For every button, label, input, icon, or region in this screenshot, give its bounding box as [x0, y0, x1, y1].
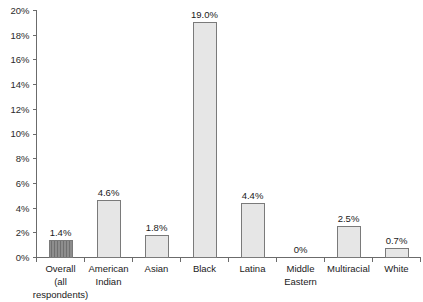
y-tick-label: 2%	[16, 227, 30, 238]
y-tick-label: 20%	[10, 5, 30, 16]
bar	[49, 240, 72, 257]
x-category-label: Latina	[240, 263, 267, 274]
bar-value-label: 0.7%	[386, 235, 408, 246]
x-category-label: Overall(allrespondents)	[33, 263, 88, 300]
bar	[193, 23, 216, 258]
y-tick-label: 6%	[16, 178, 30, 189]
bar	[97, 201, 120, 258]
y-tick-label: 8%	[16, 153, 30, 164]
bar-chart: 0%2%4%6%8%10%12%14%16%18%20% 1.4%4.6%1.8…	[0, 0, 423, 302]
bar-value-label: 4.4%	[242, 190, 264, 201]
bar-value-label: 4.6%	[98, 187, 120, 198]
y-tick-label: 0%	[16, 252, 30, 263]
bar-value-label: 1.8%	[146, 222, 168, 233]
x-category-label: Asian	[145, 263, 169, 274]
bar	[337, 227, 360, 258]
bar	[241, 203, 264, 257]
y-tick-label: 16%	[10, 54, 30, 65]
bar	[145, 235, 168, 257]
y-tick-label: 4%	[16, 203, 30, 214]
x-category-label: AmericanIndian	[88, 263, 128, 287]
x-category-label: Black	[193, 263, 216, 274]
chart-canvas: 0%2%4%6%8%10%12%14%16%18%20% 1.4%4.6%1.8…	[0, 0, 423, 302]
x-category-label: MiddleEastern	[284, 263, 317, 287]
x-category-label: Multiracial	[327, 263, 370, 274]
x-category-label: White	[384, 263, 408, 274]
bar-value-label: 0%	[294, 244, 308, 255]
bar-value-label: 19.0%	[191, 9, 218, 20]
category-labels-group: Overall(allrespondents)AmericanIndianAsi…	[33, 263, 409, 300]
bar-value-label: 2.5%	[338, 213, 360, 224]
y-tick-label: 12%	[10, 104, 30, 115]
y-tick-label: 10%	[10, 128, 30, 139]
y-tick-label: 14%	[10, 79, 30, 90]
y-axis: 0%2%4%6%8%10%12%14%16%18%20%	[10, 5, 36, 263]
x-axis	[37, 258, 421, 262]
bar-value-label: 1.4%	[50, 227, 72, 238]
bar	[385, 249, 408, 258]
y-tick-label: 18%	[10, 30, 30, 41]
